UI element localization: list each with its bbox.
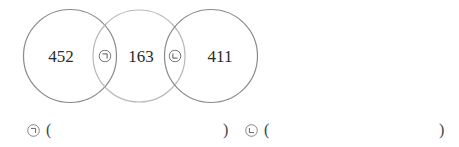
circled-nieun-icon (245, 124, 258, 137)
middle-circle-number: 163 (128, 48, 154, 65)
circled-giyeok-icon (99, 50, 112, 63)
answer-row: ( ) ( ) (0, 122, 459, 140)
circled-nieun-icon (169, 50, 182, 63)
right-circle-number: 411 (208, 48, 233, 65)
answer-giyeok-input[interactable] (56, 122, 224, 142)
answer-nieun-input[interactable] (274, 122, 440, 142)
left-circle-number: 452 (48, 48, 74, 65)
open-paren: ( (46, 121, 51, 139)
open-paren: ( (264, 121, 269, 139)
close-paren: ) (439, 121, 444, 139)
close-paren: ) (223, 121, 228, 139)
circled-giyeok-icon (27, 124, 40, 137)
